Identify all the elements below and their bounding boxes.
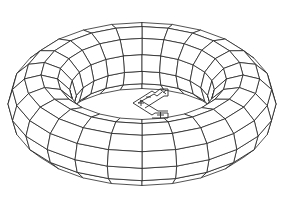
torus-face	[142, 55, 161, 73]
torus-face	[112, 122, 142, 135]
torus-face	[142, 71, 161, 85]
wireframe-torus	[0, 0, 284, 205]
ucs-icon	[133, 89, 168, 118]
ucs-origin-marker	[138, 100, 144, 106]
ucs-x-axis-inner	[140, 100, 168, 111]
drawing-canvas	[0, 0, 284, 205]
torus-face	[120, 38, 142, 56]
ucs-x-axis-arrow	[133, 103, 168, 118]
torus-face	[142, 133, 176, 151]
torus-face	[142, 38, 164, 56]
torus-face	[142, 150, 177, 169]
torus-face	[142, 122, 172, 135]
torus-face	[107, 150, 142, 169]
torus-wireframe-mesh	[8, 23, 276, 186]
torus-face	[123, 55, 142, 73]
torus-face	[108, 133, 142, 151]
torus-face	[123, 71, 142, 85]
